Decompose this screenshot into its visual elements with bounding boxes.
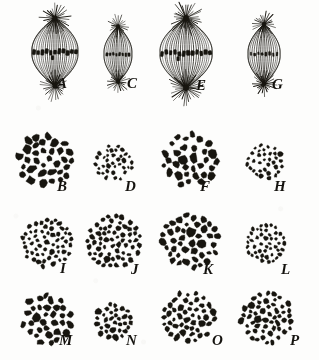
panel-label-e: E — [196, 78, 206, 93]
panel-label-j: J — [131, 262, 139, 277]
panel-O-drawing — [161, 290, 217, 343]
panel-H-drawing — [246, 144, 284, 180]
panel-L-drawing — [246, 223, 286, 264]
panel-label-m: M — [59, 333, 73, 348]
panel-label-k: K — [203, 262, 213, 277]
panel-label-c: C — [127, 76, 137, 91]
plate-canvas — [0, 0, 319, 360]
panel-P-drawing — [238, 291, 294, 346]
panel-label-i: I — [60, 261, 66, 276]
panel-label-o: O — [212, 333, 223, 348]
panel-label-f: F — [200, 179, 210, 194]
panel-F-drawing — [162, 131, 220, 188]
figure-plate: ACEGBDFHIJKLMNOP — [0, 0, 319, 360]
panel-label-h: H — [274, 179, 286, 194]
panel-label-n: N — [126, 333, 137, 348]
panel-label-p: P — [290, 333, 299, 348]
panel-label-g: G — [272, 77, 283, 92]
panel-label-d: D — [125, 179, 136, 194]
panel-label-a: A — [57, 76, 67, 91]
panel-A-drawing — [32, 3, 78, 101]
panel-label-b: B — [57, 179, 67, 194]
panel-D-drawing — [93, 145, 133, 181]
panel-J-drawing — [85, 214, 141, 268]
panel-label-l: L — [281, 262, 290, 277]
